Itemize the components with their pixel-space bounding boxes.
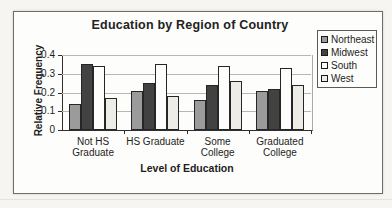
- chart-title: Education by Region of Country: [40, 18, 340, 32]
- legend-item-west: West: [321, 73, 376, 85]
- bar-northeast-1: [131, 91, 143, 130]
- y-tick-label: 0.4: [33, 50, 55, 60]
- x-tick: [124, 131, 125, 134]
- bar-south-3: [280, 68, 292, 130]
- bar-midwest-2: [206, 85, 218, 130]
- bar-west-1: [167, 96, 179, 130]
- x-category-label: SomeCollege: [182, 136, 254, 158]
- gridline: [62, 55, 311, 56]
- y-tick: [58, 74, 62, 75]
- legend-item-northeast: Northeast: [321, 34, 376, 46]
- bar-south-0: [93, 66, 105, 130]
- x-category-label: HS Graduate: [119, 136, 191, 147]
- x-tick: [311, 131, 312, 134]
- legend-item-south: South: [321, 60, 376, 72]
- x-tick: [249, 131, 250, 134]
- y-tick-label: 0: [33, 125, 55, 135]
- y-tick: [58, 130, 62, 131]
- legend-label: Midwest: [331, 48, 368, 58]
- legend-swatch-icon: [321, 62, 328, 69]
- legend-swatch-icon: [321, 49, 328, 56]
- y-tick-label: 0.3: [33, 69, 55, 79]
- bar-northeast-0: [69, 104, 81, 130]
- y-tick: [58, 93, 62, 94]
- x-category-label: GraduatedCollege: [244, 136, 316, 158]
- bar-west-0: [105, 98, 117, 130]
- y-tick-label: 0.2: [33, 88, 55, 98]
- scan-artifact-line: [0, 199, 392, 200]
- legend: NortheastMidwestSouthWest: [317, 30, 377, 88]
- bar-midwest-0: [81, 64, 93, 130]
- bar-midwest-1: [143, 83, 155, 130]
- bar-northeast-2: [194, 100, 206, 130]
- y-tick-label: 0.1: [33, 106, 55, 116]
- bar-midwest-3: [268, 89, 280, 130]
- y-tick: [58, 111, 62, 112]
- x-tick: [187, 131, 188, 134]
- bar-south-1: [155, 64, 167, 130]
- y-tick: [58, 55, 62, 56]
- legend-item-midwest: Midwest: [321, 47, 376, 59]
- bar-northeast-3: [256, 91, 268, 130]
- bar-west-3: [292, 85, 304, 130]
- bar-west-2: [230, 81, 242, 130]
- legend-swatch-icon: [321, 36, 328, 43]
- legend-label: South: [331, 61, 357, 71]
- legend-swatch-icon: [321, 75, 328, 82]
- scanned-page: Education by Region of Country Relative …: [0, 0, 392, 208]
- bar-south-2: [218, 66, 230, 130]
- x-axis-title: Level of Education: [126, 162, 248, 174]
- x-category-label: Not HSGraduate: [57, 136, 129, 158]
- legend-label: Northeast: [331, 35, 374, 45]
- legend-label: West: [331, 74, 354, 84]
